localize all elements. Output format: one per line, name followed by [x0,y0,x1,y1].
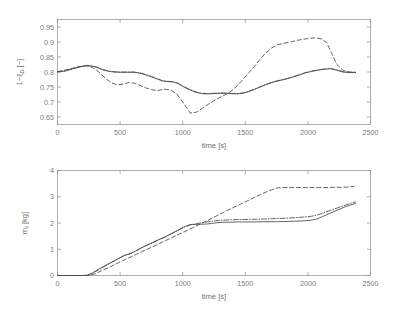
bottom-xaxis-label: time [s] [202,292,226,301]
x-tick-label: 1500 [237,128,253,137]
x-tick-label: 2000 [300,128,316,137]
bottom-data-curves [58,186,356,275]
y-tick-label: 0.9 [44,38,54,47]
x-tick-label: 1500 [237,279,253,288]
y-tick-label: 0.8 [44,68,54,77]
top-axis-ticks [58,20,371,125]
y-tick-label: 0.65 [40,113,54,122]
y-tick-label: 0.95 [40,23,54,32]
x-tick-label: 2500 [363,128,379,137]
bottom-yaxis-label: mf [kg] [20,212,30,234]
top-tick-labels: 050010001500200025000.650.70.750.80.850.… [40,23,379,137]
y-tick-label: 2 [50,219,54,228]
y-tick-label: 0.7 [44,98,54,107]
top-plot-frame [58,20,371,125]
x-tick-label: 1000 [175,279,191,288]
top-yaxis-label: 1−ξD [−] [15,59,25,86]
top-data-curves [58,38,356,113]
data-series-solid [58,204,356,276]
data-series-solid [58,66,356,94]
y-tick-label: 0 [50,271,54,280]
x-tick-label: 1000 [175,128,191,137]
chart-panel-top: 050010001500200025000.650.70.750.80.850.… [0,0,399,160]
y-tick-label: 0.75 [40,83,54,92]
bottom-chart-svg: 0500100015002000250001234 time [s] mf [k… [0,158,399,311]
svg-text:1−ξD [−]: 1−ξD [−] [15,59,25,86]
x-tick-label: 0 [56,128,60,137]
data-series-dash-dot [58,202,356,276]
top-chart-svg: 050010001500200025000.650.70.750.80.850.… [0,0,399,160]
top-xaxis-label: time [s] [202,141,226,150]
y-tick-label: 1 [50,245,54,254]
data-series-dashed [58,38,356,113]
x-tick-label: 2500 [363,279,379,288]
x-tick-label: 500 [114,128,126,137]
x-tick-label: 0 [56,279,60,288]
x-tick-label: 2000 [300,279,316,288]
chart-panel-bottom: 0500100015002000250001234 time [s] mf [k… [0,158,399,311]
y-tick-label: 4 [50,166,54,175]
x-tick-label: 500 [114,279,126,288]
y-tick-label: 3 [50,192,54,201]
svg-text:mf [kg]: mf [kg] [20,212,30,234]
data-series-dashed [58,186,355,275]
y-tick-label: 0.85 [40,53,54,62]
figure-container: 050010001500200025000.650.70.750.80.850.… [0,0,399,311]
